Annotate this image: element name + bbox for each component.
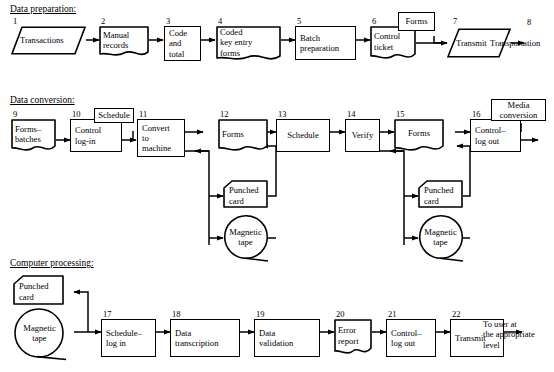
node-punched-card-2-label: Punched card xyxy=(223,180,268,208)
node-media-conversion-label: Media conversion xyxy=(492,100,545,120)
node-transactions: Transactions xyxy=(11,26,86,55)
node-schedule-overlay-label: Schedule xyxy=(95,109,133,122)
node-number-9: 9 xyxy=(13,110,17,119)
node-magnetic-tape-1-label: Magnetic tape xyxy=(13,308,66,358)
node-control-ticket-label: Control ticket xyxy=(370,26,416,62)
node-number-3: 3 xyxy=(166,17,170,26)
node-number-12: 12 xyxy=(220,110,229,119)
node-data-validation: Data validation xyxy=(254,319,320,357)
node-punched-card-2: Punched card xyxy=(223,180,268,208)
node-magnetic-tape-2-label: Magnetic tape xyxy=(223,214,268,260)
node-convert-to-machine-label: Convert to machine xyxy=(138,120,184,156)
node-number-14: 14 xyxy=(347,110,356,119)
section-heading-data-conversion: Data conversion: xyxy=(10,95,75,106)
node-media-conversion: Media conversion xyxy=(491,99,546,121)
node-coded-key-entry-forms-label: Coded key entry forms xyxy=(216,26,281,64)
node-schedule-2-label: Schedule xyxy=(277,120,329,151)
node-number-22: 22 xyxy=(452,310,461,319)
node-control-log-in-label: Control log-in xyxy=(71,120,121,151)
node-number-21: 21 xyxy=(388,310,397,319)
node-number-4: 4 xyxy=(218,17,222,26)
node-schedule-log-in-label: Schedule– log in xyxy=(102,320,155,356)
node-number-17: 17 xyxy=(103,310,112,319)
section-heading-data-preparation: Data preparation: xyxy=(10,4,76,15)
node-punched-card-3-label: Punched card xyxy=(418,180,463,208)
node-control-log-out-1-label: Control– log out xyxy=(471,120,520,151)
node-manual-records-label: Manual records xyxy=(99,26,149,59)
node-batch-preparation-label: Batch preparation xyxy=(296,27,355,59)
node-number-5: 5 xyxy=(297,17,301,26)
node-punched-card-1-label: Punched card xyxy=(13,275,64,305)
terminator-transportation: Transportation xyxy=(490,38,540,48)
node-number-15: 15 xyxy=(396,110,405,119)
section-heading-computer-processing: Computer processing: xyxy=(10,258,94,269)
node-magnetic-tape-3-label: Magnetic tape xyxy=(418,214,463,260)
node-control-log-out-1: Control– log out xyxy=(470,119,521,152)
node-number-20: 20 xyxy=(336,310,345,319)
node-forms-2-label: Forms xyxy=(218,119,268,154)
node-forms-3-label: Forms xyxy=(394,119,444,154)
node-data-transcription: Data transcription xyxy=(170,319,240,357)
node-manual-records: Manual records xyxy=(99,26,149,59)
node-forms-batches: Forms– batches xyxy=(11,119,56,154)
node-number-13: 13 xyxy=(278,110,287,119)
node-verify: Verify xyxy=(345,119,380,152)
terminator-number-8: 8 xyxy=(527,18,531,27)
flowchart-canvas: Data preparation: Data conversion: Compu… xyxy=(0,0,554,372)
node-number-6: 6 xyxy=(372,17,376,26)
node-coded-key-entry-forms: Coded key entry forms xyxy=(216,26,281,64)
node-forms-batches-label: Forms– batches xyxy=(11,119,56,154)
node-verify-label: Verify xyxy=(346,120,379,151)
node-data-transcription-label: Data transcription xyxy=(171,320,239,356)
node-forms-overlay-1: Forms xyxy=(398,12,435,31)
terminator-to-user: To user at the appropriate level xyxy=(483,319,535,350)
node-number-10: 10 xyxy=(72,110,81,119)
node-magnetic-tape-1: Magnetic tape xyxy=(13,308,66,358)
node-number-11: 11 xyxy=(139,110,147,119)
node-schedule-2: Schedule xyxy=(276,119,330,152)
node-convert-to-machine: Convert to machine xyxy=(137,119,185,157)
node-forms-overlay-1-label: Forms xyxy=(399,13,434,30)
node-punched-card-3: Punched card xyxy=(418,180,463,208)
node-control-log-out-2: Control– log out xyxy=(386,319,436,357)
node-error-report: Error report xyxy=(334,319,372,357)
node-forms-2: Forms xyxy=(218,119,268,154)
node-number-18: 18 xyxy=(172,310,181,319)
node-code-and-total-label: Code and total xyxy=(165,27,200,60)
node-data-validation-label: Data validation xyxy=(255,320,319,356)
node-control-ticket: Control ticket xyxy=(370,26,416,62)
node-number-19: 19 xyxy=(256,310,265,319)
node-batch-preparation: Batch preparation xyxy=(295,26,356,60)
node-magnetic-tape-2: Magnetic tape xyxy=(223,214,268,260)
node-punched-card-1: Punched card xyxy=(13,275,64,305)
node-schedule-overlay: Schedule xyxy=(94,108,134,123)
node-transactions-label: Transactions xyxy=(11,26,86,55)
node-number-7: 7 xyxy=(453,17,457,26)
node-magnetic-tape-3: Magnetic tape xyxy=(418,214,463,260)
node-code-and-total: Code and total xyxy=(164,26,201,61)
node-number-2: 2 xyxy=(101,17,105,26)
node-control-log-in: Control log-in xyxy=(70,119,122,152)
node-number-1: 1 xyxy=(13,17,17,26)
node-schedule-log-in: Schedule– log in xyxy=(101,319,156,357)
node-error-report-label: Error report xyxy=(334,319,372,357)
node-number-16: 16 xyxy=(472,110,481,119)
node-control-log-out-2-label: Control– log out xyxy=(387,320,435,356)
node-forms-3: Forms xyxy=(394,119,444,154)
